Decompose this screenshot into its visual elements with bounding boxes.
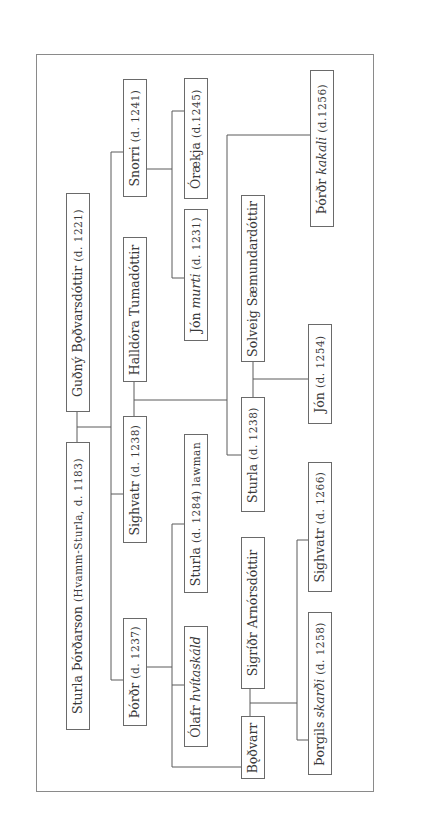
person-dates: (d. 1241) [129, 90, 141, 143]
person-dates: (d. 1231) [190, 217, 202, 274]
person-epithet: skarði [312, 678, 327, 717]
person-dates: (d. 1238) [247, 407, 259, 460]
person-guthny: Guðný Bǫðvarsdóttir (d. 1221) [66, 193, 90, 412]
person-name: Jón [188, 309, 203, 334]
person-name: Halldóra Tumadóttir [127, 244, 142, 375]
person-dates: (d. 1284) lawman [190, 441, 202, 542]
person-dates: (d. 1258) [314, 622, 326, 679]
person-name: Sighvatr [127, 481, 142, 535]
person-snorri: Snorri (d. 1241) [123, 79, 147, 197]
person-epithet: kakali [314, 136, 329, 174]
person-halldora: Halldóra Tumadóttir [123, 237, 147, 382]
person-thordr: Þórðr (d. 1237) [123, 618, 147, 726]
person-sturla-1238: Sturla (d. 1238) [241, 397, 265, 512]
person-jon-murti: Jón murti (d. 1231) [184, 209, 208, 341]
person-sighvatr-1266: Sighvatr (d. 1266) [308, 462, 332, 592]
person-dates: (d. 1266) [314, 472, 326, 525]
person-name: Guðný Bǫðvarsdóttir [70, 265, 85, 396]
person-name: Sturla [188, 547, 203, 586]
person-thorgils-skardi: Þorgils skarði (d. 1258) [308, 612, 332, 775]
person-dates: (d. 1237) [129, 626, 141, 679]
person-name: Bǫðvarr [245, 722, 260, 773]
person-name: Sigríðr Arnórsdóttir [245, 550, 260, 677]
person-name: Sighvatr [312, 528, 327, 582]
person-jon-1254: Jón (d. 1254) [308, 324, 332, 424]
person-solveig: Solveig Sæmundardóttir [241, 195, 265, 362]
person-oraekja: Órækja (d.1245) [184, 78, 208, 199]
person-epithet: murti [188, 274, 203, 309]
person-name: Ólafr [188, 701, 203, 737]
person-name: Órækja [188, 142, 203, 189]
person-sigridr: Sigríðr Arnórsdóttir [241, 537, 265, 689]
person-sturla-lawman: Sturla (d. 1284) lawman [184, 434, 208, 593]
person-dates: (d. 1254) [314, 335, 326, 388]
person-thordr-kakali: Þórðr kakali (d.1256) [310, 70, 334, 227]
person-name: Solveig Sæmundardóttir [245, 201, 260, 357]
person-name: Þórðr [127, 683, 142, 718]
person-name: Sturla Þórðarson [70, 606, 85, 714]
person-olafr: Ólafr hvítaskáld [184, 626, 208, 747]
person-dates: (d. 1238) [129, 424, 141, 477]
person-sighvatr: Sighvatr (d. 1238) [123, 416, 147, 543]
person-dates: (d. 1221) [72, 208, 84, 261]
person-epithet: hvítaskáld [188, 636, 203, 701]
person-sturla-thordarson: Sturla Þórðarson (Hvamm-Sturla, d. 1183) [66, 442, 90, 730]
person-bodvarr: Bǫðvarr [241, 716, 265, 779]
person-name: Þórðr [314, 174, 329, 213]
person-name: Sturla [245, 463, 260, 502]
person-name: Jón [312, 392, 327, 413]
person-dates: (d.1245) [190, 89, 202, 138]
person-name: Snorri [127, 146, 142, 186]
person-dates: (d.1256) [316, 83, 328, 136]
person-dates: (Hvamm-Sturla, d. 1183) [72, 458, 84, 602]
person-name: Þorgils [312, 717, 327, 765]
